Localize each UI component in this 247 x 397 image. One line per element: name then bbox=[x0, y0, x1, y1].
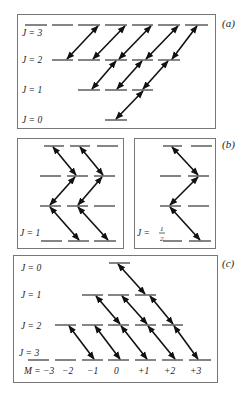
m-label: +3 bbox=[190, 366, 201, 376]
j-label-a-1: J = 1 bbox=[22, 85, 42, 95]
transitions-c-j2-j3 bbox=[69, 326, 198, 359]
j-label-c-1: J = 1 bbox=[21, 290, 41, 300]
transitions-a-j0-j1 bbox=[116, 91, 143, 119]
energy-level-diagram: (a) J = 3 J = 2 J = 1 J = 0 bbox=[0, 0, 247, 397]
m-label: 0 bbox=[114, 366, 119, 376]
m-label: M = −3 bbox=[23, 366, 54, 376]
j-label-b-half: J = 1 2 bbox=[137, 225, 165, 243]
m-axis-labels: M = −3 −2 −1 0 +1 +2 +3 bbox=[23, 366, 201, 376]
transitions-b-left bbox=[50, 147, 108, 240]
svg-text:2: 2 bbox=[160, 235, 164, 243]
j-label-c-0: J = 0 bbox=[21, 263, 41, 273]
transitions-c-j0-j1 bbox=[118, 264, 145, 294]
transitions-a-j1-j2 bbox=[92, 61, 168, 89]
svg-text:J =: J = bbox=[137, 228, 150, 238]
svg-text:1: 1 bbox=[160, 225, 164, 233]
panel-a: (a) J = 3 J = 2 J = 1 J = 0 bbox=[18, 15, 236, 129]
transitions-b-right bbox=[170, 147, 200, 240]
j-label-a-0: J = 0 bbox=[22, 115, 42, 125]
m-label: +2 bbox=[164, 366, 175, 376]
levels-b-left bbox=[40, 146, 118, 241]
m-label: −1 bbox=[87, 366, 98, 376]
panel-c: (c) J = 0 J = 1 J = 2 J = 3 bbox=[14, 256, 235, 383]
transitions-c-j1-j2 bbox=[96, 296, 173, 324]
levels-b-right bbox=[160, 146, 212, 241]
m-label: −2 bbox=[62, 366, 73, 376]
j-label-b-1: J = 1 bbox=[20, 228, 40, 238]
panel-a-label: (a) bbox=[222, 17, 235, 30]
j-label-c-3: J = 3 bbox=[19, 348, 39, 358]
panel-b-right: (b) J = 1 2 bbox=[135, 138, 236, 249]
panel-b-left: J = 1 bbox=[18, 139, 124, 249]
m-label: +1 bbox=[138, 366, 149, 376]
j-label-a-2: J = 2 bbox=[22, 55, 42, 65]
panel-b-label: (b) bbox=[222, 138, 235, 151]
panel-c-label: (c) bbox=[222, 257, 235, 270]
j-label-a-3: J = 3 bbox=[22, 28, 42, 38]
transitions-a-j2-j3 bbox=[67, 26, 197, 59]
panel-a-frame bbox=[18, 15, 216, 129]
j-label-c-2: J = 2 bbox=[21, 321, 41, 331]
